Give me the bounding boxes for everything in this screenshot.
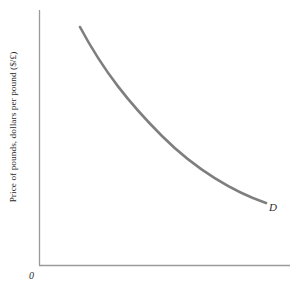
origin-label: 0 <box>29 271 34 281</box>
demand-curve-path <box>80 27 266 203</box>
demand-curve-label: D <box>269 202 277 213</box>
plot-area <box>0 0 301 290</box>
demand-curve-figure: Price of pounds, dollars per pound ($/£)… <box>0 0 301 290</box>
y-axis-label: Price of pounds, dollars per pound ($/£) <box>9 52 18 203</box>
